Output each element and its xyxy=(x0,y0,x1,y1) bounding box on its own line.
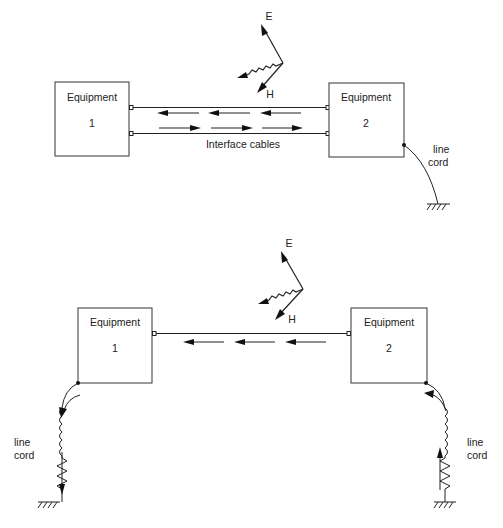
emi-coupling-diagram: Equipment 1 Interface xyxy=(0,0,503,528)
top-equipment-1: Equipment 1 xyxy=(55,82,129,156)
top-cord-label-line: line xyxy=(433,143,450,155)
bottom-e-label: E xyxy=(285,237,292,249)
bottom-equipment-2: Equipment 2 xyxy=(351,308,427,383)
bottom-right-line-cord: line cord xyxy=(424,381,488,502)
bottom-right-ground-icon xyxy=(434,502,456,508)
top-eq1-connector-upper xyxy=(130,106,134,110)
bottom-em-field-icon: E H xyxy=(258,237,303,325)
bottom-current-arrows-left xyxy=(183,339,326,345)
top-equipment-2: Equipment 2 xyxy=(329,83,404,157)
bottom-eq1-number: 1 xyxy=(112,342,118,354)
top-ground-icon xyxy=(427,204,450,210)
bottom-left-cord-label-cord: cord xyxy=(14,449,35,461)
top-em-field-icon: E H xyxy=(237,10,283,100)
bottom-right-cord-label-cord: cord xyxy=(467,449,488,461)
bottom-eq1-connector xyxy=(153,332,157,336)
top-current-arrows-right xyxy=(159,125,303,131)
top-diagram: Equipment 1 Interface xyxy=(55,10,450,210)
top-cord-label-cord: cord xyxy=(428,156,449,168)
top-eq1-connector-lower xyxy=(130,132,134,136)
bottom-eq2-connector xyxy=(347,332,351,336)
bottom-left-ground-icon xyxy=(38,502,60,508)
top-current-arrows-left xyxy=(157,110,301,116)
bottom-right-cord-label-line: line xyxy=(467,436,484,448)
bottom-left-cord-label-line: line xyxy=(14,436,31,448)
top-eq2-number: 2 xyxy=(363,117,369,129)
bottom-h-label: H xyxy=(288,313,296,325)
bottom-eq2-title: Equipment xyxy=(364,316,414,328)
bottom-left-line-cord: line cord xyxy=(14,381,80,502)
bottom-equipment-1: Equipment 1 xyxy=(78,308,152,383)
bottom-eq1-title: Equipment xyxy=(90,316,140,328)
top-eq2-title: Equipment xyxy=(341,91,391,103)
top-h-label: H xyxy=(266,88,274,100)
top-cable-label: Interface cables xyxy=(206,138,280,150)
top-e-label: E xyxy=(265,10,272,22)
top-eq1-title: Equipment xyxy=(67,91,117,103)
top-eq1-number: 1 xyxy=(89,117,95,129)
top-line-cord: line cord xyxy=(402,143,450,204)
bottom-eq2-number: 2 xyxy=(386,342,392,354)
bottom-diagram: Equipment 1 E H Equi xyxy=(14,237,488,508)
